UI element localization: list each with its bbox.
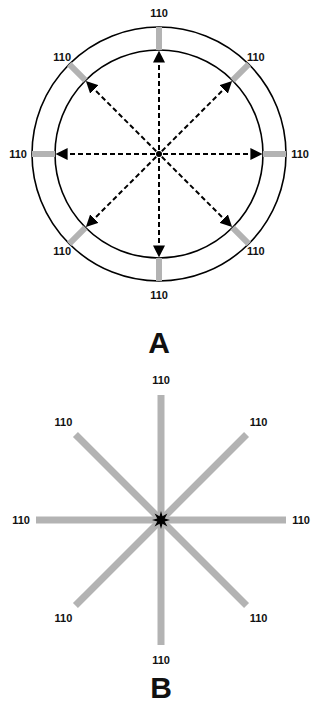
gray-spoke: [161, 434, 247, 520]
value-label: 110: [247, 245, 265, 257]
gray-tick: [69, 64, 85, 80]
dashed-arrow: [88, 83, 157, 152]
center-star-icon: [152, 511, 170, 529]
panel-a-diagram: 110110110110110110110110: [9, 7, 309, 301]
value-label: 110: [150, 289, 168, 301]
value-label: 110: [53, 51, 71, 63]
value-label: 110: [12, 514, 30, 526]
dashed-arrow: [162, 83, 231, 152]
panel-b-diagram: 110110110110110110110110: [12, 374, 310, 666]
value-label: 110: [150, 7, 168, 19]
gray-tick: [233, 64, 249, 80]
value-label: 110: [250, 416, 268, 428]
value-label: 110: [55, 416, 73, 428]
value-label: 110: [250, 612, 268, 624]
value-label: 110: [247, 51, 265, 63]
dashed-arrow: [88, 157, 157, 226]
value-label: 110: [152, 374, 170, 386]
value-label: 110: [9, 148, 27, 160]
panel-label-b: B: [150, 671, 172, 704]
gray-tick: [69, 228, 85, 244]
value-label: 110: [152, 654, 170, 666]
gray-spoke: [161, 520, 247, 606]
center-dot: [156, 151, 162, 157]
value-label: 110: [53, 245, 71, 257]
panel-label-a: A: [148, 326, 170, 359]
value-label: 110: [291, 148, 309, 160]
diagram-canvas: 110110110110110110110110 A 1101101101101…: [0, 0, 318, 709]
dashed-arrow: [162, 157, 231, 226]
gray-spoke: [75, 520, 161, 606]
value-label: 110: [292, 514, 310, 526]
gray-spoke: [75, 434, 161, 520]
value-label: 110: [55, 612, 73, 624]
gray-tick: [233, 228, 249, 244]
